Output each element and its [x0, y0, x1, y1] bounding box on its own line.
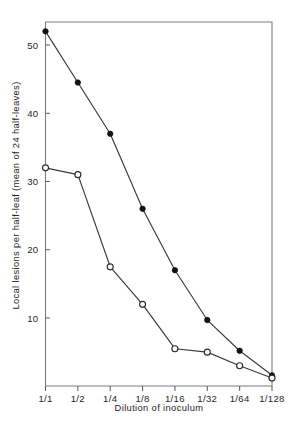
- data-point-marker: [75, 172, 81, 178]
- data-point-marker: [237, 348, 242, 353]
- line-chart-plot: 1020304050 1/11/21/41/81/161/321/641/128: [0, 0, 296, 424]
- data-point-marker: [237, 363, 243, 369]
- x-axis-title: Dilution of inoculum: [45, 402, 273, 413]
- y-tick-label: 20: [27, 244, 38, 255]
- data-point-marker: [140, 206, 145, 211]
- figure-container: Local lesions per half-leaf (mean of 24 …: [0, 0, 296, 424]
- data-point-marker: [204, 349, 210, 355]
- data-point-marker: [172, 346, 178, 352]
- data-point-marker: [107, 264, 113, 270]
- y-tick-label: 50: [27, 40, 38, 51]
- y-axis-ticks: 1020304050: [27, 40, 50, 324]
- data-point-marker: [269, 375, 275, 381]
- plot-frame: [46, 22, 273, 386]
- data-series-group: [43, 29, 276, 381]
- data-point-marker: [172, 268, 177, 273]
- data-point-marker: [75, 80, 80, 85]
- series-line-open-circle-series: [46, 168, 273, 378]
- plot-border: [46, 22, 273, 386]
- y-tick-label: 10: [27, 313, 38, 324]
- y-tick-label: 30: [27, 176, 38, 187]
- data-point-marker: [43, 29, 48, 34]
- y-tick-label: 40: [27, 108, 38, 119]
- data-point-marker: [108, 131, 113, 136]
- data-point-marker: [43, 165, 49, 171]
- data-point-marker: [140, 301, 146, 307]
- data-point-marker: [205, 317, 210, 322]
